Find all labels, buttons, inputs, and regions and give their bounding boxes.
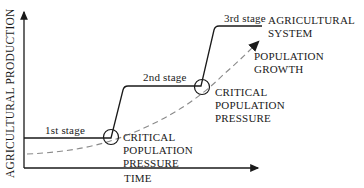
critical-2-text: CRITICAL POPULATION PRESSURE xyxy=(215,86,285,125)
x-axis-label: TIME xyxy=(124,172,152,185)
stage-1-label: 1st stage xyxy=(45,124,85,137)
y-axis-label: AGRICULTURAL PRODUCTION xyxy=(4,8,16,178)
critical-1-text: CRITICAL POPULATION PRESSURE xyxy=(123,131,193,170)
stage-3-label: 3rd stage xyxy=(224,12,266,25)
stage-2-label: 2nd stage xyxy=(143,71,187,84)
population-growth-text: POPULATION GROWTH xyxy=(254,50,324,76)
agricultural-system-text: AGRICULTURAL SYSTEM xyxy=(268,14,355,40)
